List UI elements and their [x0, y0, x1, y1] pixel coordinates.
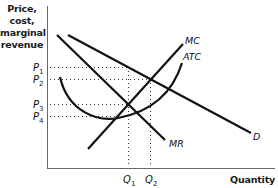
p2-label: P2 [33, 74, 44, 88]
y-axis-label: Price, cost, marginal revenue [0, 3, 44, 51]
demand-label: D [253, 131, 260, 142]
q1-label: Q1 [123, 174, 135, 188]
demand-curve [68, 35, 251, 133]
average-total-cost-curve [60, 63, 182, 119]
p4-label: P4 [33, 111, 44, 125]
marginal-cost-curve [88, 44, 183, 149]
y-axis-label-line-3: marginal [0, 27, 44, 39]
q2-label: Q2 [145, 174, 157, 188]
mr-label: MR [169, 138, 184, 149]
guide-lines [50, 67, 151, 167]
mc-label: MC [185, 35, 200, 46]
y-axis-label-line-2: cost, [0, 15, 44, 27]
atc-label: ATC [182, 51, 202, 62]
monopoly-cost-revenue-diagram: Price, cost, marginal revenue Quantity M… [0, 0, 278, 188]
x-axis-label: Quantity [230, 174, 275, 185]
y-axis-label-line-1: Price, [0, 3, 44, 15]
y-axis-label-line-4: revenue [0, 39, 44, 51]
